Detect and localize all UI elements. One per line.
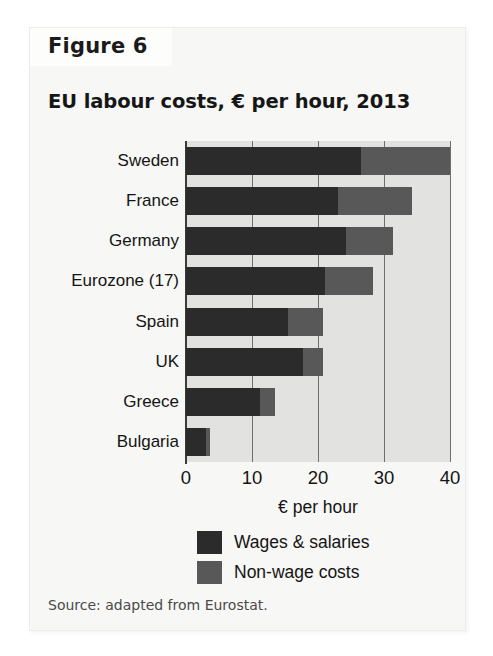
bar-segment-wages[interactable] [186, 147, 361, 175]
chart-plot-wrapper: SwedenFranceGermanyEurozone (17)SpainUKG… [29, 27, 466, 631]
bar-segment-nonwage[interactable] [346, 227, 392, 255]
figure-card: Figure 6 EU labour costs, € per hour, 20… [29, 27, 466, 631]
category-label: Spain [136, 312, 179, 332]
bar-row[interactable] [186, 308, 450, 336]
value-axis-title: € per hour [186, 497, 450, 518]
legend-swatch [197, 531, 222, 554]
bar-segment-nonwage[interactable] [260, 388, 275, 416]
legend-label: Wages & salaries [234, 532, 370, 553]
category-label: Germany [109, 231, 179, 251]
category-label: France [126, 191, 179, 211]
bar-segment-nonwage[interactable] [325, 267, 373, 295]
bar-row[interactable] [186, 187, 450, 215]
value-axis-tick-label: 40 [440, 467, 461, 489]
bar-segment-wages[interactable] [186, 308, 288, 336]
bar-row[interactable] [186, 388, 450, 416]
bar-segment-nonwage[interactable] [288, 308, 323, 336]
bar-row[interactable] [186, 147, 450, 175]
bar-segment-nonwage[interactable] [361, 147, 450, 175]
bar-segment-wages[interactable] [186, 267, 325, 295]
category-axis-labels: SwedenFranceGermanyEurozone (17)SpainUKG… [29, 141, 179, 462]
chart-legend: Wages & salariesNon-wage costs [197, 527, 457, 587]
legend-label: Non-wage costs [234, 562, 359, 583]
bar-segment-wages[interactable] [186, 388, 260, 416]
category-label: Sweden [118, 151, 179, 171]
bar-segment-wages[interactable] [186, 348, 303, 376]
value-axis-tick-label: 30 [374, 467, 395, 489]
bar-row[interactable] [186, 267, 450, 295]
source-note: Source: adapted from Eurostat. [48, 597, 268, 613]
bar-segment-wages[interactable] [186, 227, 346, 255]
bar-row[interactable] [186, 227, 450, 255]
bar-segment-nonwage[interactable] [303, 348, 322, 376]
bar-segment-wages[interactable] [186, 428, 206, 456]
bars-layer [186, 141, 450, 462]
bar-row[interactable] [186, 428, 450, 456]
category-label: Eurozone (17) [71, 271, 179, 291]
legend-swatch [197, 561, 222, 584]
legend-item[interactable]: Non-wage costs [197, 557, 457, 587]
bar-segment-wages[interactable] [186, 187, 338, 215]
value-axis-tick-label: 10 [242, 467, 263, 489]
gridline-40 [450, 141, 451, 462]
value-axis-tick-labels: 010203040 [186, 467, 450, 493]
bar-row[interactable] [186, 348, 450, 376]
category-label: Greece [123, 392, 179, 412]
legend-item[interactable]: Wages & salaries [197, 527, 457, 557]
value-axis-tick-label: 20 [308, 467, 329, 489]
bar-segment-nonwage[interactable] [206, 428, 211, 456]
category-label: UK [155, 352, 179, 372]
category-label: Bulgaria [117, 432, 179, 452]
bar-segment-nonwage[interactable] [338, 187, 412, 215]
value-axis-tick-label: 0 [181, 467, 191, 489]
